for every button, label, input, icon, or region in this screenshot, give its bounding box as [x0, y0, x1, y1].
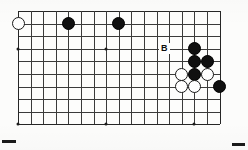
stone-black-5[interactable]: [201, 55, 214, 68]
go-board[interactable]: B: [18, 11, 220, 124]
stone-white-2[interactable]: [175, 68, 188, 81]
star-point-left-upper: [17, 47, 20, 50]
register-mark-bottom-left: [2, 140, 16, 143]
stone-black-6[interactable]: [188, 68, 201, 81]
stone-black-1[interactable]: [62, 17, 75, 30]
grid-line-horizontal-9: [18, 124, 220, 125]
stone-white-5[interactable]: [188, 80, 201, 93]
grid-line-vertical-1: [31, 11, 32, 124]
star-point-right-lower: [193, 123, 196, 126]
star-point-center-upper: [105, 47, 108, 50]
stone-white-3[interactable]: [201, 68, 214, 81]
grid-line-vertical-7: [106, 11, 107, 124]
point-label-b: B: [159, 43, 170, 54]
grid-line-vertical-2: [43, 11, 44, 124]
stone-white-4[interactable]: [175, 80, 188, 93]
grid-line-vertical-3: [56, 11, 57, 124]
grid-line-vertical-6: [94, 11, 95, 124]
grid-line-vertical-12: [169, 11, 170, 124]
grid-line-vertical-5: [81, 11, 82, 124]
star-point-left-lower: [17, 123, 20, 126]
grid-line-vertical-10: [144, 11, 145, 124]
stone-black-2[interactable]: [112, 17, 125, 30]
star-point-center-lower: [105, 123, 108, 126]
grid-line-vertical-9: [131, 11, 132, 124]
stone-white-1[interactable]: [12, 17, 25, 30]
stone-black-3[interactable]: [188, 42, 201, 55]
grid-line-vertical-16: [220, 11, 221, 124]
register-mark-bottom-right: [232, 143, 245, 146]
grid-line-vertical-11: [157, 11, 158, 124]
stone-black-4[interactable]: [188, 55, 201, 68]
go-board-figure: B: [0, 0, 248, 150]
